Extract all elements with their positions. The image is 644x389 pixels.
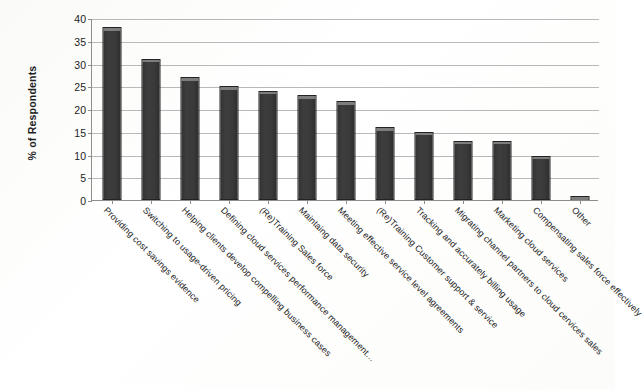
bar-slot <box>287 18 326 200</box>
y-tick-label: 0 <box>80 195 86 207</box>
x-axis-label: Maintaing data security <box>296 205 370 279</box>
bar-top-highlight <box>337 102 354 105</box>
bar-slot <box>560 18 599 200</box>
bar-slot <box>443 18 482 200</box>
y-tick-mark <box>88 201 92 202</box>
x-axis-label: Migrating channel partners to cloud cerv… <box>452 205 604 357</box>
x-axis-labels: Providing cost savings evidenceSwitching… <box>91 203 615 389</box>
y-axis-title: % of Respondents <box>26 48 44 178</box>
y-tick-label: 25 <box>74 81 86 93</box>
bar[interactable] <box>180 77 199 200</box>
bar-slot <box>170 18 209 200</box>
bar[interactable] <box>453 141 472 200</box>
x-axis-label: Marketing cloud services <box>491 205 570 284</box>
bar[interactable] <box>102 27 121 200</box>
bar[interactable] <box>375 127 394 200</box>
bar-top-highlight <box>103 28 120 31</box>
x-axis-label: Other <box>569 205 592 228</box>
bar-slot <box>209 18 248 200</box>
bar-slot <box>326 18 365 200</box>
bar-slot <box>131 18 170 200</box>
y-tick-label: 5 <box>80 172 86 184</box>
bar-top-highlight <box>454 142 471 145</box>
bar-slot <box>404 18 443 200</box>
bar-top-highlight <box>181 78 198 81</box>
bar[interactable] <box>219 86 238 200</box>
plot-area: 0510152025303540 <box>91 19 598 201</box>
bar-top-highlight <box>532 157 549 160</box>
bar-top-highlight <box>220 87 237 90</box>
x-axis-label: Helping clients develop compelling busin… <box>179 205 332 358</box>
bar-slot <box>521 18 560 200</box>
bar-slot <box>482 18 521 200</box>
bar[interactable] <box>414 132 433 200</box>
bar-top-highlight <box>376 128 393 131</box>
y-tick-label: 10 <box>74 150 86 162</box>
bar-top-highlight <box>142 60 159 63</box>
bar-slot <box>248 18 287 200</box>
y-tick-label: 30 <box>74 59 86 71</box>
bar[interactable] <box>297 95 316 200</box>
bar[interactable] <box>492 141 511 200</box>
y-tick-label: 35 <box>74 36 86 48</box>
bar-slot <box>92 18 131 200</box>
bar-top-highlight <box>259 92 276 95</box>
bar-top-highlight <box>493 142 510 145</box>
y-tick-label: 20 <box>74 104 86 116</box>
bar-slot <box>365 18 404 200</box>
y-tick-label: 15 <box>74 127 86 139</box>
y-tick-label: 40 <box>74 13 86 25</box>
bar[interactable] <box>336 101 355 200</box>
bar[interactable] <box>258 91 277 200</box>
bars-layer <box>92 18 599 200</box>
bar[interactable] <box>141 59 160 200</box>
x-axis-label: (Re)Training Sales force <box>257 205 335 283</box>
bar[interactable] <box>531 156 550 200</box>
bar-top-highlight <box>298 96 315 99</box>
bar-top-highlight <box>415 133 432 136</box>
